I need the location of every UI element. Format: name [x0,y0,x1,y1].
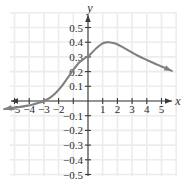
curve-arrow-right [164,65,172,71]
grid-lines [10,12,177,176]
x-tick-label: 2 [115,103,121,115]
y-tick-label: −0.1 [63,110,83,122]
x-axis-arrow-right [165,98,172,104]
y-tick-label: −0.4 [63,154,83,166]
chart-figure: −5−4−3−2123450.50.40.30.20.1−0.1−0.2−0.3… [0,0,186,187]
x-tick-label: 4 [144,103,150,115]
axes [11,15,172,176]
y-tick-label: −0.3 [63,139,83,151]
x-tick-label: 3 [129,103,135,115]
y-tick-label: −0.5 [63,169,83,181]
x-tick-label: 5 [159,103,165,115]
y-tick-label: 0.4 [69,36,83,48]
y-axis-arrow-up [85,15,91,22]
y-tick-label: 0.1 [69,80,83,92]
y-tick-label: 0.5 [69,22,83,34]
y-tick-label: −0.2 [63,124,83,136]
x-tick-label: 1 [100,103,106,115]
x-tick-label: −3 [38,103,50,115]
coordinate-plane-svg: −5−4−3−2123450.50.40.30.20.1−0.1−0.2−0.3… [0,0,186,187]
x-axis-label: x [174,94,181,108]
y-axis-label: y [86,1,93,15]
